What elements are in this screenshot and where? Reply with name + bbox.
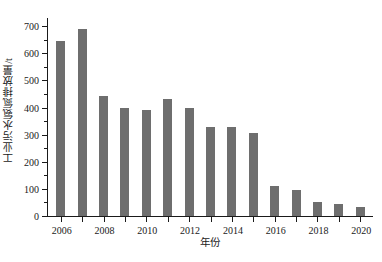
x-tick: 2018	[317, 216, 318, 222]
bar	[313, 202, 322, 216]
x-axis-title: 年份	[47, 238, 373, 249]
x-tick-minor	[296, 216, 297, 222]
bar	[206, 127, 215, 216]
y-tick: 600	[42, 53, 48, 54]
y-axis-title-label: 工业污水氨氮排放量/t	[4, 58, 15, 163]
bar	[120, 108, 129, 216]
y-tick-minor	[44, 121, 48, 122]
y-tick-label: 100	[24, 185, 39, 195]
y-tick-minor	[44, 175, 48, 176]
x-tick-minor	[125, 216, 126, 222]
y-tick-label: 600	[24, 49, 39, 59]
bar	[142, 110, 151, 216]
bar-chart: 工业污水氨氮排放量/t 0100200300400500600700 20062…	[0, 0, 382, 262]
y-tick: 700	[42, 26, 48, 27]
bar	[249, 133, 258, 216]
bar	[185, 108, 194, 216]
bar	[334, 204, 343, 216]
bar	[56, 41, 65, 216]
y-tick: 0	[42, 216, 48, 217]
x-tick-minor	[168, 216, 169, 222]
y-tick-label: 0	[34, 212, 39, 222]
x-tick-label: 2012	[180, 226, 200, 236]
y-tick-label: 200	[24, 158, 39, 168]
y-tick-minor	[44, 67, 48, 68]
x-tick: 2016	[275, 216, 276, 222]
x-tick-label: 2010	[137, 226, 157, 236]
bar	[292, 190, 301, 216]
x-tick-label: 2018	[308, 226, 328, 236]
y-tick-minor	[44, 148, 48, 149]
y-tick-minor	[44, 94, 48, 95]
x-tick-label: 2006	[52, 226, 72, 236]
y-tick-label: 300	[24, 131, 39, 141]
y-tick-label: 400	[24, 104, 39, 114]
x-tick-minor	[339, 216, 340, 222]
bar	[78, 29, 87, 216]
x-tick-minor	[211, 216, 212, 222]
y-tick: 300	[42, 135, 48, 136]
x-tick: 2010	[146, 216, 147, 222]
y-tick: 100	[42, 189, 48, 190]
x-tick: 2012	[189, 216, 190, 222]
bar	[356, 207, 365, 216]
y-tick: 500	[42, 80, 48, 81]
y-tick: 200	[42, 162, 48, 163]
y-tick-label: 700	[24, 22, 39, 32]
bar	[99, 96, 108, 216]
y-tick-minor	[44, 40, 48, 41]
x-axis-title-label: 年份	[200, 237, 220, 248]
x-tick-label: 2014	[223, 226, 243, 236]
x-tick-label: 2008	[95, 226, 115, 236]
y-tick-minor	[44, 202, 48, 203]
x-tick: 2014	[232, 216, 233, 222]
x-tick-label: 2020	[351, 226, 371, 236]
x-tick-label: 2016	[266, 226, 286, 236]
y-axis-title: 工业污水氨氮排放量/t	[0, 0, 18, 220]
x-tick: 2020	[360, 216, 361, 222]
bar	[227, 127, 236, 216]
x-tick-minor	[82, 216, 83, 222]
bar	[270, 186, 279, 216]
y-tick-label: 500	[24, 76, 39, 86]
bar	[163, 99, 172, 216]
x-tick: 2006	[61, 216, 62, 222]
y-tick: 400	[42, 108, 48, 109]
plot-area: 0100200300400500600700 20062008201020122…	[47, 18, 373, 217]
x-tick: 2008	[104, 216, 105, 222]
x-tick-minor	[253, 216, 254, 222]
